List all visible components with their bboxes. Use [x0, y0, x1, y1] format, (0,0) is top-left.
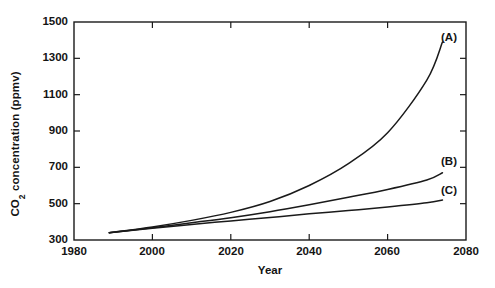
curve-a	[109, 42, 442, 233]
y-tick-label-300: 300	[22, 234, 68, 245]
y-tick-label-1100: 1100	[22, 89, 68, 100]
axes-frame	[74, 22, 466, 240]
curve-c	[109, 200, 442, 233]
y-tick-label-1500: 1500	[22, 16, 68, 27]
y-tick-label-500: 500	[22, 198, 68, 209]
series-label-a: (A)	[441, 31, 457, 43]
series-label-b: (B)	[441, 155, 457, 167]
x-tick-label-2020: 2020	[201, 246, 261, 257]
data-curves	[109, 42, 442, 233]
x-tick-label-2000: 2000	[122, 246, 182, 257]
x-tick-label-2080: 2080	[436, 246, 495, 257]
y-tick-label-1300: 1300	[22, 52, 68, 63]
series-label-c: (C)	[441, 184, 457, 196]
x-tick-label-1980: 1980	[44, 246, 104, 257]
x-axis-title: Year	[74, 264, 466, 276]
y-tick-label-900: 900	[22, 125, 68, 136]
x-tick-label-2060: 2060	[357, 246, 417, 257]
co2-projection-chart: CO2 concentration (ppmv) Year 300 500 70…	[0, 0, 495, 288]
y-axis-title-units: concentration (ppmv)	[9, 71, 21, 194]
x-tick-label-2040: 2040	[279, 246, 339, 257]
curve-b	[109, 173, 442, 233]
axis-ticks	[74, 22, 466, 240]
y-tick-label-700: 700	[22, 161, 68, 172]
